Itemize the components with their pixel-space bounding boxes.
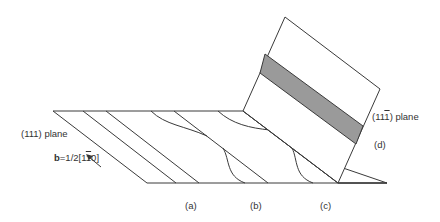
dislocation-a-straight — [174, 111, 268, 183]
plane-111-label: (111) plane — [21, 129, 68, 139]
burgers-prefix: =1/2[1 — [60, 152, 86, 163]
plane-11m1-suffix: ) plane — [390, 111, 419, 122]
plane-11m1-label: (111) plane — [372, 112, 419, 122]
label-d: (d) — [374, 140, 386, 150]
plane-11m1-prefix: (11 — [372, 111, 384, 122]
plane-111-left-edge — [53, 111, 147, 183]
dislocation-line-1 — [83, 111, 176, 183]
label-c: (c) — [320, 201, 331, 211]
burgers-suffix: 0] — [91, 152, 99, 163]
dislocation-line-2 — [106, 111, 199, 183]
dislocation-a-lower-curve — [223, 148, 245, 183]
label-a: (a) — [185, 201, 197, 211]
label-b: (b) — [250, 201, 262, 211]
burgers-vector-label: b=1/2[110] — [54, 153, 99, 163]
